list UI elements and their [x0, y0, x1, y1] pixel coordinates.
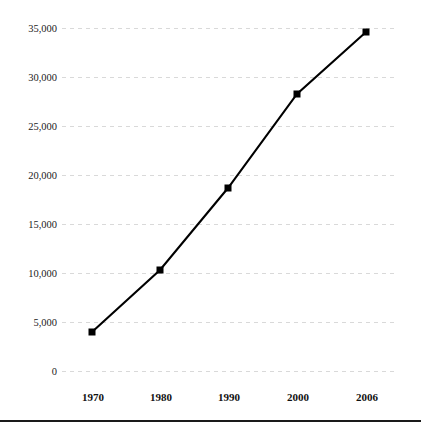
line-chart-figure: 35,000 30,000 25,000 20,000 15,000 10,00… — [0, 0, 421, 435]
y-tick-label-5000: 5,000 — [33, 317, 57, 328]
data-point-1970[interactable] — [89, 329, 96, 336]
y-axis-labels: 35,000 30,000 25,000 20,000 15,000 10,00… — [28, 23, 57, 377]
data-point-markers — [89, 29, 370, 336]
gridlines-group — [62, 29, 398, 372]
y-tick-label-35000: 35,000 — [28, 23, 57, 34]
chart-plot-area: 35,000 30,000 25,000 20,000 15,000 10,00… — [0, 0, 421, 435]
y-tick-label-30000: 30,000 — [28, 72, 57, 83]
data-point-1980[interactable] — [157, 267, 164, 274]
x-tick-label-2000: 2000 — [287, 391, 310, 403]
data-point-1990[interactable] — [225, 185, 232, 192]
y-tick-label-0: 0 — [52, 366, 57, 377]
x-tick-label-1990: 1990 — [218, 391, 241, 403]
x-tick-label-1970: 1970 — [82, 391, 105, 403]
y-tick-label-15000: 15,000 — [28, 219, 57, 230]
data-series-line — [92, 32, 366, 332]
y-tick-label-25000: 25,000 — [28, 121, 57, 132]
x-tick-label-2006: 2006 — [356, 391, 379, 403]
x-tick-label-1980: 1980 — [150, 391, 173, 403]
x-axis-labels: 1970 1980 1990 2000 2006 — [82, 391, 379, 403]
data-point-2000[interactable] — [294, 91, 301, 98]
data-point-2006[interactable] — [363, 29, 370, 36]
y-tick-label-20000: 20,000 — [28, 170, 57, 181]
y-tick-label-10000: 10,000 — [28, 268, 57, 279]
